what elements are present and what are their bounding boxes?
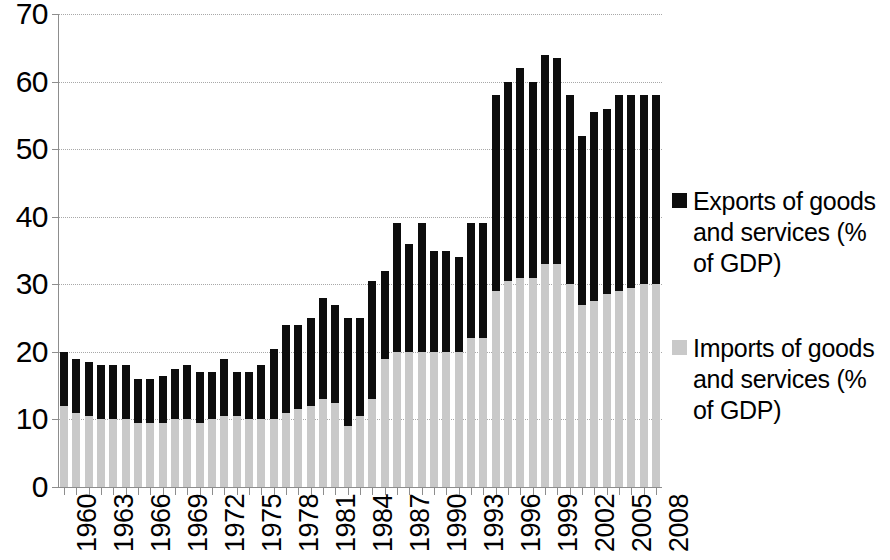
bar-segment-exports bbox=[171, 369, 179, 420]
bar-column bbox=[566, 95, 574, 487]
bar-segment-exports bbox=[516, 68, 524, 277]
bar-segment-imports bbox=[627, 288, 635, 487]
legend-label: Exports of goods and services (% of GDP) bbox=[693, 186, 886, 279]
legend-entry[interactable]: Exports of goods and services (% of GDP) bbox=[672, 186, 886, 279]
bar-segment-exports bbox=[615, 95, 623, 291]
bar-column bbox=[381, 271, 389, 487]
x-tick-mark bbox=[446, 487, 447, 495]
bar-segment-exports bbox=[220, 359, 228, 416]
y-tick-label: 70 bbox=[0, 0, 48, 29]
bar-segment-imports bbox=[245, 419, 253, 487]
bar-segment-exports bbox=[97, 365, 105, 419]
bar-segment-imports bbox=[640, 284, 648, 487]
bar-segment-imports bbox=[319, 399, 327, 487]
bar-segment-exports bbox=[245, 372, 253, 419]
y-tick-label: 0 bbox=[0, 472, 48, 502]
bar-segment-exports bbox=[122, 365, 130, 419]
bar-segment-imports bbox=[529, 278, 537, 487]
bar-segment-imports bbox=[578, 305, 586, 487]
bar-column bbox=[233, 372, 241, 487]
bar-column bbox=[270, 348, 278, 487]
bar-column bbox=[146, 379, 154, 487]
bar-segment-imports bbox=[294, 409, 302, 487]
bar-segment-imports bbox=[331, 403, 339, 487]
bar-segment-imports bbox=[257, 419, 265, 487]
bar-segment-imports bbox=[566, 284, 574, 487]
legend-entry[interactable]: Imports of goods and services (% of GDP) bbox=[672, 333, 886, 426]
bar-column bbox=[85, 362, 93, 487]
bar-segment-exports bbox=[208, 372, 216, 419]
bar-segment-imports bbox=[85, 416, 93, 487]
x-tick-mark bbox=[212, 487, 213, 495]
bar-segment-exports bbox=[529, 82, 537, 278]
bar-segment-exports bbox=[134, 379, 142, 423]
x-tick-mark bbox=[545, 487, 546, 495]
bar-segment-exports bbox=[72, 359, 80, 413]
bar-segment-exports bbox=[603, 109, 611, 295]
bar-segment-imports bbox=[430, 352, 438, 487]
bar-segment-exports bbox=[405, 244, 413, 352]
stacked-column-chart: 010203040506070 196019631966196919721975… bbox=[0, 0, 890, 560]
bar-column bbox=[257, 365, 265, 487]
bar-column bbox=[368, 281, 376, 487]
x-tick-mark bbox=[557, 487, 558, 495]
bar-segment-exports bbox=[492, 95, 500, 291]
bar-segment-exports bbox=[479, 223, 487, 338]
x-tick-label: 1987 bbox=[407, 494, 434, 552]
x-tick-mark bbox=[187, 487, 188, 495]
bar-segment-exports bbox=[541, 55, 549, 264]
x-tick-mark bbox=[631, 487, 632, 495]
bar-segment-imports bbox=[381, 359, 389, 487]
x-tick-label: 1972 bbox=[222, 494, 249, 552]
bar-column bbox=[393, 223, 401, 487]
bar-segment-imports bbox=[652, 284, 660, 487]
x-tick-mark bbox=[434, 487, 435, 495]
bar-segment-imports bbox=[541, 264, 549, 487]
x-tick-mark bbox=[607, 487, 608, 495]
bar-segment-imports bbox=[418, 352, 426, 487]
bar-segment-exports bbox=[652, 95, 660, 284]
bar-segment-exports bbox=[196, 372, 204, 423]
x-tick-label: 1999 bbox=[555, 494, 582, 552]
bar-segment-exports bbox=[578, 136, 586, 305]
y-tick-label: 40 bbox=[0, 202, 48, 232]
x-tick-mark bbox=[200, 487, 201, 495]
bar-segment-imports bbox=[590, 301, 598, 487]
x-tick-mark bbox=[113, 487, 114, 495]
x-tick-mark bbox=[459, 487, 460, 495]
bar-column bbox=[442, 251, 450, 488]
bar-column bbox=[196, 372, 204, 487]
bar-column bbox=[356, 318, 364, 487]
bar-segment-imports bbox=[220, 416, 228, 487]
x-tick-mark bbox=[656, 487, 657, 495]
x-tick-label: 1975 bbox=[259, 494, 286, 552]
x-tick-label: 2008 bbox=[666, 494, 693, 552]
bar-segment-imports bbox=[615, 291, 623, 487]
bar-segment-imports bbox=[455, 352, 463, 487]
x-tick-mark bbox=[397, 487, 398, 495]
bar-column bbox=[467, 223, 475, 487]
bar-segment-exports bbox=[430, 251, 438, 352]
bar-segment-exports bbox=[294, 325, 302, 409]
x-tick-label: 2002 bbox=[592, 494, 619, 552]
x-tick-mark bbox=[274, 487, 275, 495]
x-tick-mark bbox=[335, 487, 336, 495]
x-tick-mark bbox=[483, 487, 484, 495]
bar-segment-imports bbox=[442, 352, 450, 487]
bar-column bbox=[220, 359, 228, 487]
bar-column bbox=[159, 376, 167, 487]
bar-segment-exports bbox=[344, 318, 352, 426]
bar-segment-exports bbox=[257, 365, 265, 419]
bar-segment-imports bbox=[233, 416, 241, 487]
bar-segment-exports bbox=[159, 376, 167, 423]
x-tick-label: 1966 bbox=[148, 494, 175, 552]
x-tick-mark bbox=[64, 487, 65, 495]
bar-column bbox=[640, 95, 648, 487]
bar-column bbox=[479, 223, 487, 487]
x-tick-mark bbox=[348, 487, 349, 495]
bar-segment-exports bbox=[183, 365, 191, 419]
bar-segment-exports bbox=[504, 82, 512, 281]
bar-segment-imports bbox=[282, 413, 290, 487]
x-tick-mark bbox=[409, 487, 410, 495]
x-tick-mark bbox=[570, 487, 571, 495]
